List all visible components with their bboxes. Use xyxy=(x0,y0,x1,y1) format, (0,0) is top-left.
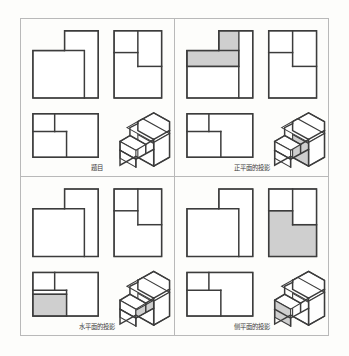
top-view xyxy=(186,272,252,316)
panel-profile-plane: 侧平面的投影 xyxy=(175,177,329,335)
side-view xyxy=(114,31,162,98)
figure-container: 题目 xyxy=(20,18,329,336)
isometric-view xyxy=(120,113,170,167)
front-view xyxy=(186,189,252,257)
front-view xyxy=(186,31,252,98)
isometric-view xyxy=(274,113,324,167)
panel-horizontal-plane-drawing: 水平面的投影 xyxy=(21,177,174,335)
side-view xyxy=(268,189,316,257)
front-view xyxy=(33,31,98,98)
panel-profile-plane-drawing: 侧平面的投影 xyxy=(175,177,329,335)
panel-caption: 侧平面的投影 xyxy=(233,322,270,331)
highlight-region xyxy=(33,294,67,316)
top-view xyxy=(186,114,252,157)
panel-caption: 题目 xyxy=(91,164,103,172)
top-view xyxy=(33,272,98,316)
isometric-view xyxy=(120,271,170,326)
panel-caption: 正平面的投影 xyxy=(233,163,270,172)
top-view xyxy=(33,114,98,157)
panel-frontal-plane-drawing: 正平面的投影 xyxy=(175,19,329,176)
side-view xyxy=(114,189,162,257)
side-view xyxy=(268,31,316,98)
isometric-view xyxy=(274,271,324,326)
front-view xyxy=(33,189,98,257)
panel-problem: 题目 xyxy=(21,19,175,177)
panel-caption: 水平面的投影 xyxy=(79,322,116,331)
panel-problem-drawing: 题目 xyxy=(21,19,174,176)
panel-frontal-plane: 正平面的投影 xyxy=(175,19,329,177)
panel-horizontal-plane: 水平面的投影 xyxy=(21,177,175,335)
